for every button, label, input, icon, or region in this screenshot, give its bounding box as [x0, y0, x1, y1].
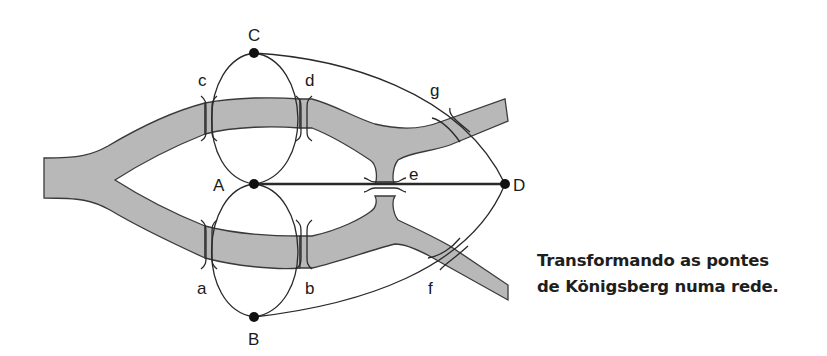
node-b — [249, 312, 259, 322]
node-label-d: D — [513, 176, 525, 195]
caption-line-2: de Königsberg numa rede. — [537, 274, 779, 300]
bridge-label-a: a — [197, 279, 207, 298]
bridge-label-c: c — [198, 71, 207, 90]
caption-line-1: Transformando as pontes — [537, 248, 779, 274]
node-d — [500, 179, 510, 189]
node-label-a: A — [213, 176, 225, 195]
bridge-label-d: d — [305, 71, 314, 90]
figure-caption: Transformando as pontes de Königsberg nu… — [537, 248, 779, 300]
bridge-label-g: g — [430, 81, 439, 100]
labels: C A B D a b c d e f g — [197, 26, 525, 349]
bridge-label-b: b — [305, 279, 314, 298]
bridge-e-bottom — [364, 188, 406, 192]
node-label-c: C — [248, 26, 260, 45]
node-a — [249, 179, 259, 189]
bridge-label-e: e — [409, 165, 418, 184]
konigsberg-diagram: C A B D a b c d e f g — [0, 0, 827, 356]
bridge-label-f: f — [428, 279, 433, 298]
node-c — [249, 48, 259, 58]
node-label-b: B — [248, 330, 259, 349]
river — [44, 98, 508, 300]
